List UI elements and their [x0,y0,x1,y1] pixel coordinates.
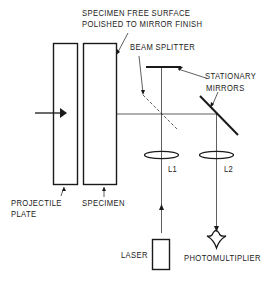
leader-specimen-surface [118,33,128,52]
label-beam-splitter: BEAM SPLITTER [130,42,195,53]
impact-arrowhead [60,108,67,118]
interferometer-diagram: SPECIMEN FREE SURFACE POLISHED TO MIRROR… [0,0,270,281]
laser-box [153,240,170,270]
leader-arrowhead-specimen [102,187,106,191]
label-mirrors: MIRRORS [206,83,245,94]
photomultiplier-icon [207,231,226,249]
label-specimen-surface-1: SPECIMEN FREE SURFACE [82,8,190,19]
label-plate: PLATE [11,209,36,220]
leader-arrowhead-splitter [141,90,145,95]
stationary-mirror-diagonal [200,96,238,135]
specimen-block [84,44,117,185]
leader-arrowhead-projectile [62,187,66,191]
label-projectile: PROJECTILE [11,198,62,209]
beam-splitter [143,95,178,130]
label-lens-l2: L2 [224,164,233,175]
leader-mirror-top [178,69,206,78]
label-laser: LASER [121,250,148,261]
label-specimen-surface-2: POLISHED TO MIRROR FINISH [82,19,202,30]
label-specimen: SPECIMEN [82,198,125,209]
label-stationary: STATIONARY [205,71,256,82]
label-photomultiplier: PHOTOMULTIPLIER [184,253,261,264]
laser-beam-arrowhead [159,204,164,210]
label-lens-l1: L1 [168,164,177,175]
leader-beam-splitter [139,56,143,93]
